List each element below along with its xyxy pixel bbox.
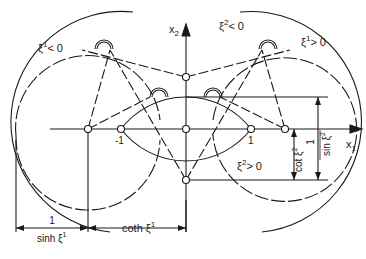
label-xi1-pos: ξ1> 0 [301, 34, 326, 48]
tangent-line [82, 50, 186, 77]
right-angle-marker [97, 42, 111, 49]
right-angle-marker [206, 90, 220, 97]
diagram-svg: x2 x1 -1 1 ξ1< 0 ξ2< 0 ξ1> 0 ξ2> 0 1 sin… [0, 0, 366, 259]
dim-inv-sinh-den: sinh ξ1 [37, 231, 67, 245]
tick-minus-one: -1 [115, 135, 124, 146]
diagram-canvas: x2 x1 -1 1 ξ1< 0 ξ2< 0 ξ1> 0 ξ2> 0 1 sin… [0, 0, 366, 259]
point-minus-one [118, 126, 125, 133]
circle-xi1-neg [16, 56, 160, 136]
radius-line [88, 97, 150, 129]
arrow-icon [291, 129, 297, 137]
tangent-line [186, 50, 290, 77]
arrow-icon [88, 225, 96, 231]
point-focus-left [85, 126, 92, 133]
radius-line [220, 97, 285, 129]
x2-arrow-icon [182, 24, 190, 36]
right-angle-marker [152, 90, 166, 97]
point-lower-center [183, 177, 190, 184]
arrow-icon [16, 225, 24, 231]
x1-label: x1 [346, 138, 357, 153]
right-angle-marker [204, 88, 222, 97]
arc-xi2-neg-left [11, 11, 133, 232]
point-focus-right [282, 126, 289, 133]
radius-line [262, 50, 285, 129]
tick-plus-one: 1 [248, 135, 254, 146]
dim-inv-sin-num: 1 [305, 139, 316, 145]
dim-cot: cot ξ2 [291, 147, 305, 172]
radius-line [88, 50, 110, 129]
right-angle-marker [261, 42, 275, 49]
right-angle-marker [95, 40, 113, 49]
dim-inv-sinh-num: 1 [49, 215, 55, 226]
radius-line [110, 50, 186, 180]
point-plus-one [248, 126, 255, 133]
label-xi2-pos: ξ2> 0 [237, 158, 262, 172]
arrow-icon [178, 225, 186, 231]
arrow-icon [315, 97, 321, 105]
x2-label: x2 [169, 23, 180, 38]
arrow-icon [315, 172, 321, 180]
label-xi2-neg: ξ2< 0 [219, 18, 244, 32]
arrow-icon [291, 172, 297, 180]
point-origin [183, 126, 190, 133]
label-xi1-neg: ξ1< 0 [38, 40, 63, 54]
right-angle-marker [150, 88, 168, 97]
dim-coth: coth ξ1 [122, 220, 156, 234]
point-upper-center [183, 74, 190, 81]
dim-inv-sin-den: sin ξ2 [319, 132, 333, 156]
x1-arrow-icon [350, 125, 362, 133]
right-angle-marker [259, 40, 277, 49]
